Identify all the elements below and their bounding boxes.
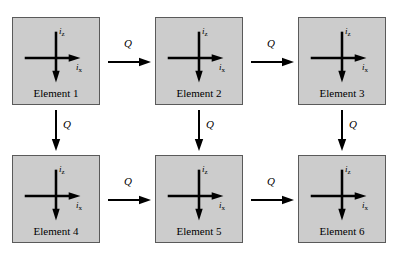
element-box[interactable]: iz ix Element 6	[298, 155, 386, 243]
axis-label-x: ix	[76, 62, 82, 72]
transition-arrow-horizontal	[251, 55, 296, 69]
transition-arrow-vertical	[192, 110, 206, 152]
transition-label: Q	[267, 175, 275, 187]
element-label: Element 2	[156, 87, 242, 99]
axis-label-z: iz	[345, 26, 351, 36]
transition-label: Q	[124, 175, 132, 187]
element-box[interactable]: iz ix Element 2	[155, 17, 243, 105]
axis-label-x: ix	[76, 200, 82, 210]
element-label: Element 1	[13, 87, 99, 99]
transition-arrow-horizontal	[251, 193, 296, 207]
axis-label-z: iz	[202, 164, 208, 174]
element-label: Element 4	[13, 225, 99, 237]
element-label: Element 5	[156, 225, 242, 237]
axis-label-x: ix	[219, 200, 225, 210]
element-box[interactable]: iz ix Element 4	[12, 155, 100, 243]
transition-label: Q	[63, 118, 71, 130]
transition-label: Q	[206, 118, 214, 130]
axis-label-x: ix	[362, 62, 368, 72]
axis-label-z: iz	[345, 164, 351, 174]
element-label: Element 3	[299, 87, 385, 99]
element-box[interactable]: iz ix Element 3	[298, 17, 386, 105]
axis-label-z: iz	[59, 26, 65, 36]
element-transformation-diagram: iz ix Element 1 iz ix Element 2 iz ix El…	[0, 0, 396, 256]
transition-label: Q	[349, 118, 357, 130]
element-label: Element 6	[299, 225, 385, 237]
axis-label-z: iz	[59, 164, 65, 174]
transition-label: Q	[267, 37, 275, 49]
transition-arrow-horizontal	[108, 55, 153, 69]
axis-label-z: iz	[202, 26, 208, 36]
axis-label-x: ix	[362, 200, 368, 210]
transition-arrow-vertical	[49, 110, 63, 152]
transition-arrow-vertical	[335, 110, 349, 152]
element-box[interactable]: iz ix Element 5	[155, 155, 243, 243]
transition-arrow-horizontal	[108, 193, 153, 207]
element-box[interactable]: iz ix Element 1	[12, 17, 100, 105]
axis-label-x: ix	[219, 62, 225, 72]
transition-label: Q	[124, 37, 132, 49]
